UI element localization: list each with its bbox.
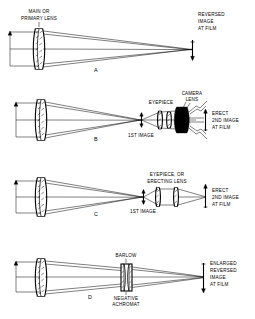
label-reversed: REVERSED bbox=[198, 12, 225, 17]
label-eyepiece-b: EYEPIECE bbox=[149, 100, 173, 105]
optical-diagram-figure: MAIN OR PRIMARY LENS REVERSED IMAGE AT F… bbox=[0, 0, 255, 319]
panel-letter-c: C bbox=[94, 211, 98, 217]
panel-letter-a: A bbox=[94, 67, 98, 73]
label-erect-c: ERECT bbox=[212, 188, 228, 193]
panel-a-converging-cone bbox=[43, 31, 192, 67]
panel-letter-d: D bbox=[88, 294, 92, 300]
panel-b-converging-cone bbox=[45, 102, 141, 138]
panel-a: MAIN OR PRIMARY LENS REVERSED IMAGE AT F… bbox=[8, 9, 225, 73]
label-camera-b: CAMERA bbox=[182, 91, 203, 96]
panel-c: 1ST IMAGE EYE bbox=[14, 172, 239, 217]
panel-a-image-label: REVERSED IMAGE AT FILM bbox=[198, 12, 225, 31]
diagram-canvas: MAIN OR PRIMARY LENS REVERSED IMAGE AT F… bbox=[0, 0, 255, 319]
panel-letter-b: B bbox=[94, 136, 98, 142]
label-primary-lens: PRIMARY LENS bbox=[21, 16, 57, 21]
label-at-film-c: AT FILM bbox=[212, 202, 230, 207]
panel-c-image-label: ERECT 2ND IMAGE AT FILM bbox=[212, 188, 239, 207]
label-1st-image-b: 1ST IMAGE bbox=[128, 133, 154, 138]
label-at-film: AT FILM bbox=[198, 26, 216, 31]
label-lens-b: LENS bbox=[186, 97, 199, 102]
panel-d-converging-cone bbox=[45, 261, 121, 294]
panel-d-objective-lens bbox=[35, 259, 46, 297]
label-main-or: MAIN OR bbox=[29, 9, 50, 14]
panel-b-film-plane bbox=[204, 109, 208, 131]
panel-b-camera-lens-stack: CAMERA LENS bbox=[174, 91, 203, 133]
label-at-film-b: AT FILM bbox=[212, 125, 230, 130]
panel-d-extended-cone bbox=[132, 267, 203, 288]
panel-b-image-label: ERECT 2ND IMAGE AT FILM bbox=[212, 111, 239, 130]
label-2nd-image-b: 2ND IMAGE bbox=[212, 118, 239, 123]
panel-a-primary-lens-label: MAIN OR PRIMARY LENS bbox=[21, 9, 57, 27]
label-enlarged-d: ENLARGED bbox=[210, 261, 237, 266]
label-erect-b: ERECT bbox=[212, 111, 228, 116]
label-image: IMAGE bbox=[198, 19, 214, 24]
panel-d: BARLOW NEGATIVE ACHROMAT ENLARGED REVERS… bbox=[14, 253, 237, 307]
label-reversed-d: REVERSED bbox=[210, 268, 237, 273]
panel-c-converging-cone bbox=[45, 180, 143, 214]
label-erecting-lens-c: ERECTING LENS bbox=[147, 179, 186, 184]
panel-a-film-plane bbox=[191, 40, 195, 61]
panel-b: 1ST IMAGE bbox=[14, 91, 239, 142]
label-negative: NEGATIVE bbox=[114, 296, 138, 301]
label-at-film-d: AT FILM bbox=[210, 282, 228, 287]
panel-d-image-label: ENLARGED REVERSED IMAGE AT FILM bbox=[210, 261, 237, 287]
label-2nd-image-c: 2ND IMAGE bbox=[212, 195, 239, 200]
label-achromat: ACHROMAT bbox=[112, 302, 139, 307]
label-eyepiece-or-c: EYEPIECE, OR bbox=[150, 172, 185, 177]
panel-d-barlow-element: BARLOW NEGATIVE ACHROMAT bbox=[112, 253, 139, 307]
panel-c-film-plane bbox=[204, 184, 208, 208]
label-barlow: BARLOW bbox=[116, 253, 137, 258]
panel-c-eyepiece-erecting-group: EYEPIECE, OR ERECTING LENS bbox=[144, 172, 187, 207]
panel-c-projection-cone bbox=[178, 189, 205, 205]
label-image-d: IMAGE bbox=[210, 275, 226, 280]
label-1st-image-c: 1ST IMAGE bbox=[130, 209, 156, 214]
